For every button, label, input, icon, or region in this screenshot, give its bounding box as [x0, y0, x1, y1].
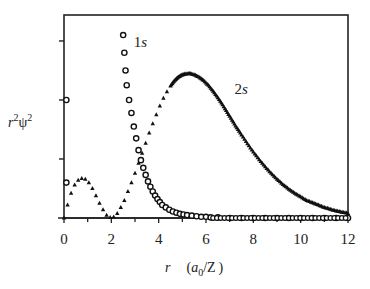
circle-marker	[145, 179, 150, 184]
circle-marker	[138, 158, 143, 163]
triangle-marker	[143, 141, 147, 145]
triangle-marker	[90, 186, 94, 190]
radial-distribution-chart: 024681012 1s2s r2ψ2 r(a0/Z)	[0, 0, 370, 289]
circle-marker	[126, 97, 131, 102]
triangle-marker	[101, 207, 105, 211]
series-label-1s: 1s	[134, 34, 148, 50]
circle-marker	[134, 136, 139, 141]
circle-marker	[64, 180, 69, 185]
triangle-marker	[69, 191, 73, 195]
circle-marker	[64, 97, 69, 102]
triangle-marker	[161, 96, 165, 100]
x-axis-label: r(a0/Z)	[165, 260, 224, 278]
triangle-marker	[104, 213, 108, 217]
x-tick-label: 6	[202, 231, 210, 247]
triangle-marker	[147, 131, 151, 135]
triangle-marker	[65, 203, 69, 207]
x-tick-label: 2	[108, 231, 116, 247]
circle-marker	[141, 165, 146, 170]
triangle-marker	[115, 211, 119, 215]
plot-frame	[64, 15, 348, 218]
circle-marker	[123, 68, 128, 73]
x-tick-label: 12	[341, 231, 356, 247]
triangle-marker	[129, 180, 133, 184]
circle-marker	[129, 110, 134, 115]
circle-marker	[143, 172, 148, 177]
y-axis-label: r2ψ2	[8, 112, 32, 130]
triangle-marker	[119, 205, 123, 209]
x-tick-label: 0	[60, 231, 68, 247]
triangle-marker	[158, 103, 162, 107]
circle-marker	[343, 216, 348, 221]
triangle-marker	[151, 121, 155, 125]
triangle-marker	[83, 177, 87, 181]
x-tick-label: 8	[250, 231, 258, 247]
series-label-2s: 2s	[234, 81, 248, 97]
triangle-marker	[94, 193, 98, 197]
plot-border	[64, 15, 348, 218]
triangle-marker	[87, 180, 91, 184]
triangle-marker	[72, 183, 76, 187]
series-1s-markers	[64, 32, 351, 220]
circle-marker	[136, 148, 141, 153]
circle-marker	[124, 83, 129, 88]
triangle-marker	[126, 189, 130, 193]
triangle-marker	[112, 214, 116, 218]
triangle-marker	[154, 112, 158, 116]
triangle-marker	[80, 176, 84, 180]
circle-marker	[121, 32, 126, 37]
circle-marker	[131, 124, 136, 129]
series-labels: 1s2s	[134, 34, 248, 97]
triangle-marker	[165, 89, 169, 93]
triangle-marker	[97, 201, 101, 205]
circle-marker	[122, 50, 127, 55]
triangle-marker	[133, 171, 137, 175]
x-tick-label: 4	[155, 231, 163, 247]
x-tick-label: 10	[293, 231, 308, 247]
triangle-marker	[122, 198, 126, 202]
x-axis-ticks: 024681012	[58, 218, 356, 247]
series-2s-markers	[62, 71, 350, 220]
